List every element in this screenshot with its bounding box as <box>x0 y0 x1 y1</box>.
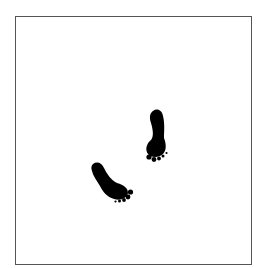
footprint-icon <box>91 163 133 203</box>
footprints-illustration <box>0 0 259 268</box>
footprint-icon <box>146 110 167 162</box>
